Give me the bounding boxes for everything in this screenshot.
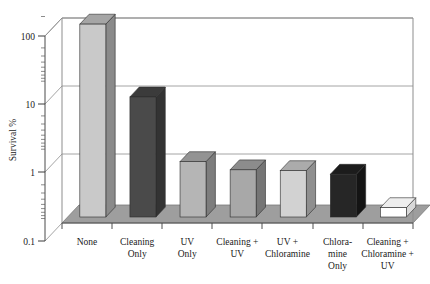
connector-100 xyxy=(45,18,62,36)
y-tick-label-0-1: 0.1 xyxy=(23,237,35,247)
category-label-5: Chlora- xyxy=(323,237,352,247)
bar-3 xyxy=(230,160,265,217)
bar-front-face xyxy=(230,170,256,217)
connector-base xyxy=(45,223,62,241)
y-axis-title: Survival % xyxy=(8,119,18,162)
x-axis-ticks xyxy=(62,223,413,229)
bar-2 xyxy=(180,152,215,217)
y-tick-label-10: 10 xyxy=(26,100,36,110)
connector-10 xyxy=(45,86,62,104)
depth-connectors xyxy=(45,18,62,241)
y-tick-labels: 100 10 1 0.1 xyxy=(21,32,36,247)
log-bar-chart-figure: 100 10 1 0.1 Survival % NoneCleaningOnly… xyxy=(0,0,430,284)
category-label-6: UV xyxy=(381,261,395,271)
category-label-4: UV + xyxy=(277,237,298,247)
bar-front-face xyxy=(130,97,156,217)
bar-side-face xyxy=(156,87,165,217)
category-label-2: UV xyxy=(180,237,194,247)
bar-1 xyxy=(130,87,165,217)
bar-front-face xyxy=(330,174,356,217)
category-label-4: Chloramine xyxy=(265,249,310,259)
category-label-3: UV xyxy=(230,249,244,259)
bar-side-face xyxy=(206,152,215,217)
bar-side-face xyxy=(106,14,115,217)
category-label-3: Cleaning + xyxy=(216,237,258,247)
category-label-6: Cleaning + xyxy=(367,237,409,247)
bar-front-face xyxy=(380,208,406,217)
y-tick-label-1: 1 xyxy=(30,168,35,178)
y-axis-major-ticks xyxy=(38,36,45,241)
connector-1 xyxy=(45,154,62,172)
bar-4 xyxy=(280,161,315,217)
y-axis-minor-ticks xyxy=(41,17,45,219)
bar-front-face xyxy=(80,24,106,217)
category-label-5: Only xyxy=(328,261,347,271)
category-label-0: None xyxy=(77,237,98,247)
chart-canvas: 100 10 1 0.1 Survival % NoneCleaningOnly… xyxy=(0,0,430,284)
category-label-2: Only xyxy=(178,249,197,259)
bar-front-face xyxy=(180,162,206,217)
category-label-1: Cleaning xyxy=(120,237,155,247)
bar-5 xyxy=(330,164,365,217)
category-label-6: Chloramine + xyxy=(361,249,414,259)
y-tick-label-100: 100 xyxy=(21,32,36,42)
bar-front-face xyxy=(280,171,306,217)
category-label-5: mine xyxy=(328,249,347,259)
category-label-1: Only xyxy=(128,249,147,259)
category-labels-group: NoneCleaningOnlyUVOnlyCleaning +UVUV +Ch… xyxy=(77,237,414,271)
bar-0 xyxy=(80,14,115,217)
